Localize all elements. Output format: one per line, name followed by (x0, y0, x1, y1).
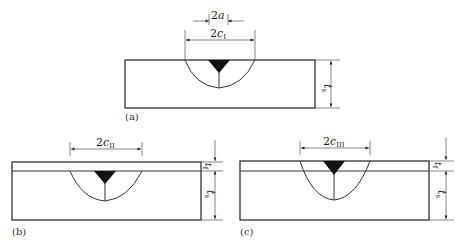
label-2c-I: 2cI (210, 27, 226, 41)
label-2c-III: 2cIII (323, 135, 345, 149)
panel-c: 2cIII tf ts (c) (240, 135, 454, 237)
label-2c-II: 2cII (96, 136, 115, 150)
label-2a: 2a (211, 9, 225, 22)
weld-bead (323, 161, 345, 175)
dimension-2a: 2a (193, 9, 244, 25)
dimension-2c-I: 2cI (185, 27, 255, 60)
weld-bead (94, 171, 116, 184)
panel-label-c: (c) (240, 226, 254, 237)
dimension-2c-II: 2cII (70, 136, 142, 156)
dimension-2c-III: 2cIII (300, 135, 370, 155)
dimension-tf-b: tf ts (201, 140, 223, 220)
panel-label-a: (a) (125, 111, 139, 122)
panel-label-b: (b) (12, 226, 26, 237)
panel-b: 2cII tf ts (b) (12, 136, 223, 237)
dimension-ts-a: ts (315, 60, 340, 108)
weld-bead (208, 60, 230, 73)
label-ts-a: ts (320, 84, 334, 92)
panel-a: 2a 2cI ts (a) (125, 9, 340, 122)
label-tf-b: tf (201, 163, 213, 171)
weld-crack-diagram: 2a 2cI ts (a) 2cII (0, 0, 465, 244)
dimension-tf-c: tf ts (429, 138, 454, 220)
label-tf-c: tf (431, 162, 443, 170)
